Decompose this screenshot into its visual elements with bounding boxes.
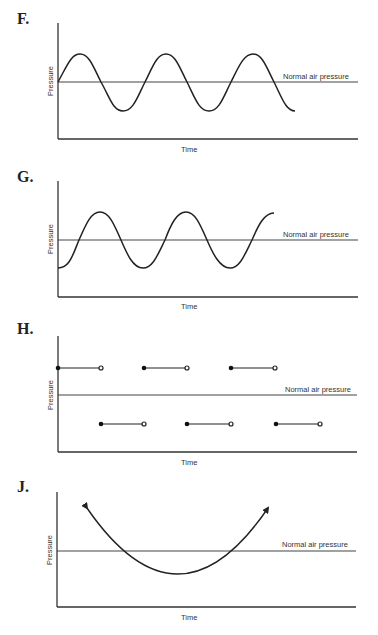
y-axis-label: Pressure <box>46 224 55 254</box>
x-axis-label: Time <box>181 613 197 622</box>
chart-f: Normal air pressure Pressure Time <box>0 0 378 160</box>
filled-dot-icon <box>229 366 234 371</box>
step-segment-high-3 <box>229 366 277 371</box>
chart-h: Normal air pressure Pressure Time <box>0 310 378 470</box>
chart-j: Normal air pressure Pressure Time <box>0 470 378 635</box>
normal-pressure-label: Normal air pressure <box>283 230 349 239</box>
y-axis-label: Pressure <box>46 66 55 96</box>
normal-pressure-label: Normal air pressure <box>285 385 351 394</box>
x-axis-label: Time <box>181 302 197 310</box>
open-dot-icon <box>185 366 189 370</box>
step-segment-low-2 <box>185 422 233 427</box>
open-dot-icon <box>273 366 277 370</box>
panel-f: F. Normal air pressure Pressure Time <box>0 0 378 160</box>
filled-dot-icon <box>99 422 104 427</box>
filled-dot-icon <box>56 366 61 371</box>
open-dot-icon <box>318 422 322 426</box>
panel-h: H. <box>0 310 378 470</box>
normal-pressure-label: Normal air pressure <box>283 72 349 81</box>
step-segment-high-1 <box>56 366 103 371</box>
y-axis-label: Pressure <box>45 535 54 565</box>
normal-pressure-label: Normal air pressure <box>282 540 348 549</box>
filled-dot-icon <box>185 422 190 427</box>
open-dot-icon <box>142 422 146 426</box>
x-axis-label: Time <box>181 458 197 467</box>
panel-g: G. Normal air pressure Pressure Time <box>0 160 378 310</box>
x-axis-label: Time <box>181 145 197 154</box>
u-curve <box>87 508 268 574</box>
panel-j: J. Normal air pressure Pressure Time <box>0 470 378 635</box>
step-segment-high-2 <box>142 366 189 371</box>
open-dot-icon <box>229 422 233 426</box>
chart-g: Normal air pressure Pressure Time <box>0 160 378 310</box>
open-dot-icon <box>99 366 103 370</box>
y-axis-label: Pressure <box>46 380 55 410</box>
filled-dot-icon <box>274 422 279 427</box>
filled-dot-icon <box>142 366 147 371</box>
step-segment-low-1 <box>99 422 146 427</box>
step-segment-low-3 <box>274 422 322 427</box>
